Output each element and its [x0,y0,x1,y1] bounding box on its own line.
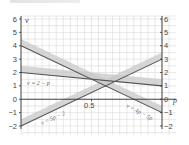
right-tick-label: −2 [164,122,173,131]
right-tick-label: 5 [164,28,168,37]
right-tick-label: −1 [164,108,173,117]
chart: v p 0.5 v = 2 − p v = 5p − 2 v = 4p − 5p… [0,0,189,145]
left-tick-label: 2 [13,68,17,77]
left-tick-label: 6 [13,15,17,24]
left-tick-label: 1 [13,81,17,90]
left-y-ticks: 6543210−1−2 [8,15,17,131]
right-tick-label: 0 [164,95,168,104]
right-tick-label: 2 [164,68,168,77]
left-tick-label: 4 [13,41,17,50]
left-tick-label: −1 [8,108,17,117]
x-tick-0-5: 0.5 [84,101,94,110]
left-tick-label: 0 [13,95,17,104]
right-tick-label: 6 [164,15,168,24]
x-axis-label: p [172,96,177,105]
y-axis-label: v [25,16,29,25]
equation-label-2-minus-p: v = 2 − p [27,80,50,86]
left-tick-label: 3 [13,55,17,64]
right-tick-label: 3 [164,55,168,64]
left-tick-label: −2 [8,122,17,131]
left-tick-label: 5 [13,28,17,37]
right-tick-label: 1 [164,81,168,90]
right-tick-label: 4 [164,41,168,50]
